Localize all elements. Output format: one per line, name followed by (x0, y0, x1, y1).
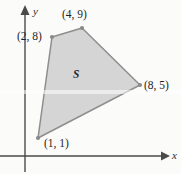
vertex-dot-1-1 (36, 136, 40, 140)
vertex-label-8-5: (8, 5) (144, 80, 169, 92)
vertex-dot-2-8 (50, 35, 54, 39)
x-axis-label: x (172, 150, 177, 161)
y-axis-arrowhead (21, 5, 30, 15)
vertex-label-4-9: (4, 9) (62, 9, 87, 21)
x-axis-arrowhead (161, 152, 170, 161)
y-axis-label: y (33, 6, 38, 17)
vertex-label-1-1: (1, 1) (44, 138, 69, 150)
region-s-polygon (38, 28, 140, 138)
vertex-dot-4-9 (80, 26, 84, 30)
vertex-dot-8-5 (138, 83, 142, 87)
math-figure-region-s: y x (2, 8) (4, 9) (8, 5) (1, 1) S (0, 0, 181, 174)
region-s-label: S (73, 69, 79, 81)
vertex-label-2-8: (2, 8) (17, 31, 42, 43)
